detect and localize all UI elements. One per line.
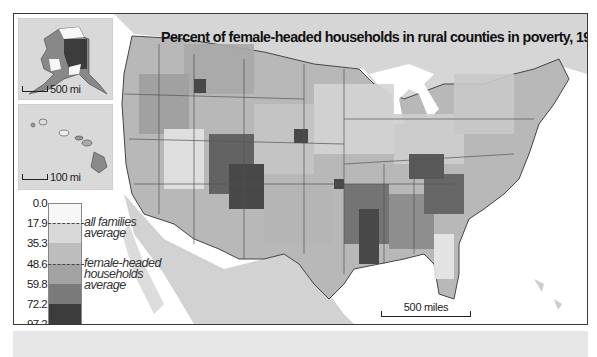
female-headed-average-label: female-headed households average [84,258,161,291]
hawaii-scale-bar: 100 mi [22,171,81,183]
legend-break: 97.2 [20,318,47,325]
bottom-bar [13,331,588,357]
legend-swatch-3 [48,264,82,284]
hawaii-inset: 100 mi [18,104,113,190]
legend-break: 48.6 [20,258,47,270]
legend-swatch-4 [48,284,82,304]
legend-swatch-5 [48,304,82,324]
all-families-average-label: all families average [84,217,136,239]
all-families-average-line [48,223,84,224]
alaska-scale-bar: 500 mi [22,83,81,95]
legend: 0.0 17.9 35.3 48.6 59.8 72.2 97.2 all fa… [14,198,154,324]
map-frame: Percent of female-headed households in r… [13,13,588,325]
legend-break: 17.9 [20,217,47,229]
legend-break: 35.3 [20,237,47,249]
main-scale-bar: 500 miles [381,301,471,317]
legend-swatch-0 [48,203,82,224]
alaska-inset: 500 mi [18,18,113,100]
legend-break: 72.2 [20,298,47,310]
map-title: Percent of female-headed households in r… [161,28,588,46]
legend-break: 59.8 [20,278,47,290]
caribbean-islands [534,279,562,310]
legend-swatch-1 [48,223,82,243]
legend-swatch-2 [48,243,82,264]
female-headed-average-line [48,264,84,265]
legend-break: 0.0 [20,197,47,209]
